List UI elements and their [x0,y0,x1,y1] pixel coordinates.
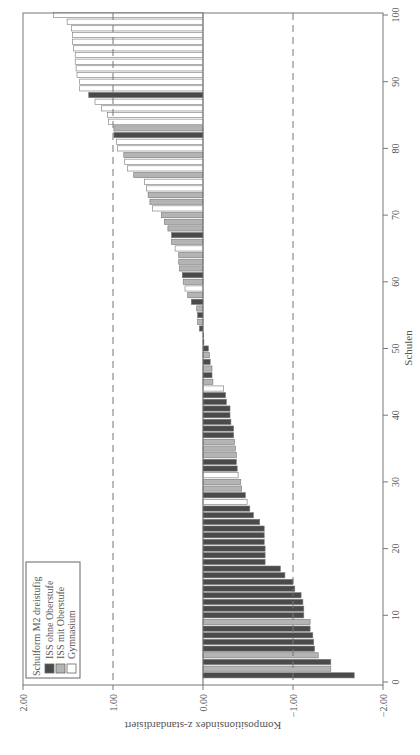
school-bar [203,646,315,651]
school-bar [148,192,203,197]
school-bar [76,66,203,71]
school-bar [203,459,236,464]
school-bar [203,413,230,418]
school-tick-label: 0 [390,680,401,685]
school-composition-chart: 2.001.000.00−1.00−2.00 01020304050607080… [0,0,420,755]
school-bar [124,152,203,157]
legend: Schulform M2 dreistufig ISS ohne Oberstu… [26,562,80,678]
school-bar [72,26,203,31]
school-bar [203,506,250,511]
school-bar [203,606,304,611]
school-bar [203,493,245,498]
value-tick-label: −2.00 [378,694,389,717]
school-bar [80,86,203,91]
legend-swatch [45,664,54,673]
school-bar [150,199,203,204]
school-bar [203,653,318,658]
school-tick-label: 20 [390,544,401,554]
school-bar [203,486,242,491]
school-bar [203,406,230,411]
school-tick-label: 30 [390,477,401,487]
school-bar [179,259,203,264]
school-bar [203,526,264,531]
school-bar [118,146,204,151]
school-bar [203,499,247,504]
school-bar [175,246,203,251]
school-bar [89,92,203,97]
school-bar [172,239,204,244]
school-bar [203,613,304,618]
school-bar [73,46,203,51]
value-tick-label: −1.00 [288,694,299,717]
school-bar [203,439,235,444]
school-tick-label: 10 [390,610,401,620]
school-bar [203,513,253,518]
school-bar [203,453,236,458]
school-bar [182,273,203,278]
legend-title: Schulform M2 dreistufig [31,577,42,676]
legend-swatch [56,664,65,673]
school-bar [203,419,231,424]
bars-group [54,12,355,678]
school-bar [75,52,203,57]
school-bar [203,366,212,371]
school-bar [114,126,203,131]
school-bar [203,666,331,671]
school-bar [203,479,241,484]
school-bar [73,39,204,44]
school-bar [203,346,208,351]
value-axis-label: Kompositionsindex z-standardisiert [125,720,282,732]
school-bar [203,639,314,644]
school-bar [73,32,204,37]
school-tick-label: 90 [390,77,401,87]
legend-label: Gymnasium [66,610,77,659]
school-bar [203,373,212,378]
school-bar [145,179,204,184]
school-bar [203,433,234,438]
school-bar [114,132,203,137]
school-bar [179,253,203,258]
school-bar [101,106,203,111]
school-bar [109,119,204,124]
school-bar [203,426,234,431]
school-bar [203,473,238,478]
school-bar [125,159,203,164]
school-bar [203,673,354,678]
value-tick-label: 1.00 [108,694,119,712]
school-bar [203,519,260,524]
value-axis-ticks: 2.001.000.00−1.00−2.00 [18,685,389,717]
legend-swatch [67,664,76,673]
school-bar [108,112,203,117]
legend-label: ISS ohne Oberstufe [44,580,55,659]
school-bar [203,586,295,591]
school-bar [203,353,209,358]
school-bar [172,233,204,238]
school-bar [185,286,203,291]
school-bar [197,306,203,311]
school-tick-label: 80 [390,143,401,153]
schools-axis-label: Schulen [402,330,414,366]
school-bar [203,379,213,384]
school-bar [203,573,285,578]
school-bar [203,633,313,638]
school-bar [134,172,203,177]
school-bar [198,313,203,318]
school-bar [77,72,203,77]
school-bar [203,553,265,558]
school-bar [127,166,203,171]
school-bar [191,299,203,304]
value-tick-label: 0.00 [198,694,209,712]
school-bar [164,219,203,224]
school-bar [203,539,264,544]
school-bar [203,599,303,604]
school-bar [203,659,331,664]
school-bar [188,293,203,298]
legend-label: ISS mit Oberstufe [55,586,66,659]
school-bar [203,619,310,624]
school-bar [153,206,203,211]
school-bar [162,213,203,218]
school-bar [203,559,265,564]
school-bar [203,359,210,364]
school-bar [80,79,203,84]
school-tick-label: 70 [390,210,401,220]
